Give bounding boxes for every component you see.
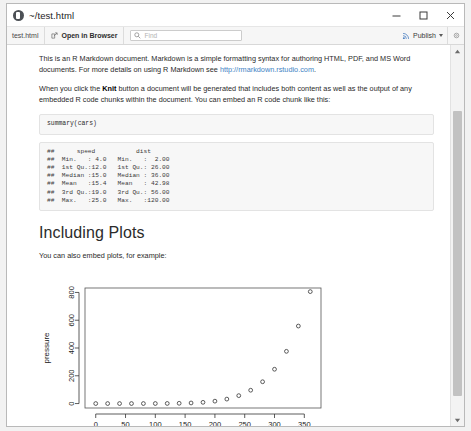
scroll-down-arrow-icon <box>454 417 461 424</box>
data-point <box>165 401 169 405</box>
y-axis: 0200400600800 <box>67 286 79 405</box>
x-tick-label: 0 <box>94 420 98 426</box>
data-point <box>189 401 193 405</box>
data-point <box>177 401 181 405</box>
scroll-up-arrow-icon <box>454 48 461 55</box>
viewer-body: This is an R Markdown document. Markdown… <box>7 45 464 426</box>
code-output-block: ## speed dist ## Min. : 4.0 Min. : 2.00 … <box>39 142 434 211</box>
rstudio-viewer-icon <box>13 10 24 21</box>
minimize-button[interactable] <box>383 4 410 26</box>
y-axis-label: pressure <box>42 331 51 363</box>
window-title: ~/test.html <box>29 10 74 21</box>
data-point <box>106 401 110 405</box>
data-point <box>308 289 312 293</box>
section-heading-including-plots: Including Plots <box>39 224 434 242</box>
rmarkdown-link[interactable]: http://rmarkdown.rstudio.com <box>220 65 314 74</box>
toolbar-right-group: Publish <box>398 27 464 44</box>
intro-text-post: . <box>314 65 316 74</box>
close-icon <box>445 10 456 21</box>
data-point <box>130 401 134 405</box>
y-tick-label: 200 <box>67 369 76 382</box>
scroll-down-button[interactable] <box>451 414 464 426</box>
knit-text-pre: When you click the <box>39 84 102 93</box>
data-point <box>249 388 253 392</box>
x-tick-label: 250 <box>238 420 251 426</box>
data-point <box>118 401 122 405</box>
settings-button[interactable] <box>447 27 464 44</box>
open-in-browser-button[interactable]: Open in Browser <box>45 27 124 44</box>
external-link-icon <box>51 32 58 39</box>
data-point <box>261 379 265 383</box>
title-bar: ~/test.html <box>7 4 464 27</box>
publish-icon <box>402 32 410 40</box>
x-tick-label: 100 <box>149 420 162 426</box>
search-input[interactable]: Find <box>144 32 157 39</box>
scrollbar-thumb[interactable] <box>453 111 462 396</box>
find-search-box[interactable]: Find <box>130 30 242 41</box>
data-point <box>273 367 277 371</box>
intro-paragraph: This is an R Markdown document. Markdown… <box>39 54 434 75</box>
x-tick-label: 350 <box>298 420 311 426</box>
x-tick-label: 150 <box>179 420 192 426</box>
y-tick-label: 400 <box>67 341 76 354</box>
data-point <box>225 397 229 401</box>
data-point <box>142 401 146 405</box>
data-point <box>201 400 205 404</box>
chevron-down-icon[interactable] <box>439 34 443 37</box>
plots-paragraph: You can also embed plots, for example: <box>39 251 434 262</box>
code-chunk-block: summary(cars) <box>39 114 434 135</box>
gear-icon <box>452 31 461 40</box>
viewer-toolbar: test.html Open in Browser Find <box>7 27 464 45</box>
search-icon <box>134 32 141 39</box>
publish-button[interactable]: Publish <box>398 27 447 44</box>
x-tick-label: 50 <box>121 420 129 426</box>
document-content: This is an R Markdown document. Markdown… <box>7 45 450 426</box>
data-points <box>94 289 312 405</box>
rmarkdown-document: This is an R Markdown document. Markdown… <box>39 45 434 426</box>
y-tick-label: 800 <box>67 286 76 299</box>
knit-paragraph: When you click the Knit button a documen… <box>39 84 434 105</box>
x-tick-label: 200 <box>209 420 222 426</box>
window-controls <box>383 4 464 26</box>
maximize-icon <box>418 10 429 21</box>
plot-svg: 0501001502002503003500200400600800temper… <box>39 280 339 426</box>
title-bar-left: ~/test.html <box>7 10 74 21</box>
code-chunk-text: summary(cars) <box>47 120 426 129</box>
data-point <box>296 324 300 328</box>
y-tick-label: 600 <box>67 313 76 326</box>
vertical-scrollbar[interactable] <box>450 45 464 426</box>
scroll-up-button[interactable] <box>451 45 464 57</box>
file-tab-test-html[interactable]: test.html <box>7 27 45 44</box>
close-button[interactable] <box>437 4 464 26</box>
viewer-window: ~/test.html <box>6 3 465 427</box>
data-point <box>237 393 241 397</box>
data-point <box>213 399 217 403</box>
data-point <box>94 401 98 405</box>
x-axis: 050100150200250300350 <box>94 414 311 426</box>
screenshot-root: ~/test.html <box>0 0 471 431</box>
open-in-browser-label: Open in Browser <box>61 32 117 39</box>
knit-bold-word: Knit <box>102 84 116 93</box>
y-tick-label: 0 <box>67 401 76 405</box>
x-tick-label: 300 <box>268 420 281 426</box>
plot-frame <box>85 288 321 408</box>
maximize-button[interactable] <box>410 4 437 26</box>
pressure-scatter-plot: 0501001502002503003500200400600800temper… <box>39 280 434 426</box>
minimize-icon <box>391 10 402 21</box>
code-output-text: ## speed dist ## Min. : 4.0 Min. : 2.00 … <box>47 148 426 205</box>
data-point <box>153 401 157 405</box>
publish-label: Publish <box>413 32 436 39</box>
data-point <box>285 349 289 353</box>
